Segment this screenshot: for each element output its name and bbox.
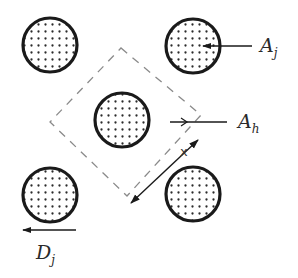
a-j-subscript: j xyxy=(274,46,278,60)
a-h-subscript: h xyxy=(252,122,260,136)
hole-bottom-right xyxy=(166,167,220,221)
d-j-label: Dj xyxy=(36,243,55,266)
d-j-subscript: j xyxy=(51,253,55,267)
a-j-label: Aj xyxy=(260,36,277,59)
hole-top-left xyxy=(23,18,77,72)
x-label: x xyxy=(180,145,188,158)
d-j-base: D xyxy=(36,241,51,263)
diagram-canvas xyxy=(0,0,298,278)
a-j-base: A xyxy=(260,34,274,56)
hole-center xyxy=(95,93,149,147)
hole-array-diagram: Aj Ah x Dj xyxy=(0,0,298,278)
hole-bottom-left xyxy=(23,168,77,222)
a-h-base: A xyxy=(238,110,252,132)
a-h-label: Ah xyxy=(238,112,259,135)
